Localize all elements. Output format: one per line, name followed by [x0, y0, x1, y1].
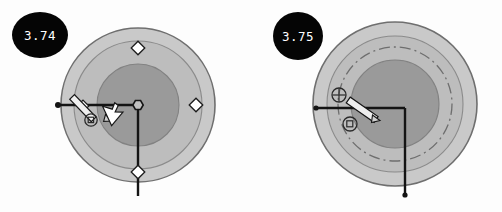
step-badge-right: 3.75: [273, 12, 323, 60]
axis-corner-dot[interactable]: [402, 192, 407, 197]
screenshot-canvas: 3.74: [0, 0, 502, 212]
figure-left-svg: 3.74: [0, 0, 251, 212]
endpoint-dot[interactable]: [313, 105, 318, 110]
center-node-hexagon[interactable]: [133, 101, 143, 110]
crosshair-snap-icon: [332, 88, 346, 102]
figure-panel-left: 3.74: [0, 0, 251, 212]
figure-panel-right: 3.75: [251, 0, 502, 212]
figure-right-svg: 3.75: [251, 0, 502, 212]
step-badge-left: 3.74: [12, 12, 68, 58]
badge-label: 3.75: [282, 29, 314, 44]
badge-label: 3.74: [24, 28, 56, 43]
endpoint-dot[interactable]: [55, 102, 61, 108]
inner-disc: [351, 60, 439, 148]
